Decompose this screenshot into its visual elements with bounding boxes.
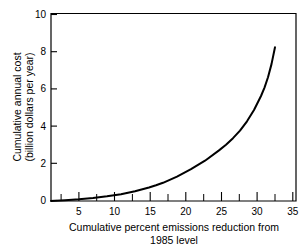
y-tick-label-10: 10 — [35, 9, 47, 20]
x-axis-title-line1: Cumulative percent emissions reduction f… — [69, 221, 279, 233]
y-axis-ticks — [51, 15, 57, 201]
chart-plot-area: 0 2 4 6 8 10 5 — [0, 0, 308, 249]
y-axis-title-line1: Cumulative annual cost — [11, 52, 23, 161]
y-axis-title-line2: (billion dollars per year) — [23, 52, 35, 161]
y-tick-label-0: 0 — [40, 195, 46, 206]
x-axis-title-line2: 1985 level — [150, 234, 198, 246]
y-axis-tick-labels: 0 2 4 6 8 10 — [35, 9, 47, 206]
x-tick-label-35: 35 — [287, 206, 299, 217]
plot-frame — [51, 14, 296, 202]
y-tick-label-4: 4 — [40, 121, 46, 132]
x-tick-label-25: 25 — [216, 206, 228, 217]
x-tick-label-10: 10 — [109, 206, 121, 217]
y-tick-label-2: 2 — [40, 158, 46, 169]
chart-figure: 0 2 4 6 8 10 5 — [0, 0, 308, 249]
x-axis-tick-labels: 5 10 15 20 25 30 35 — [76, 206, 299, 217]
x-tick-label-30: 30 — [252, 206, 264, 217]
y-tick-label-6: 6 — [40, 83, 46, 94]
x-tick-label-5: 5 — [76, 206, 82, 217]
data-curve-cumulative-annual-cost — [51, 47, 275, 201]
x-tick-label-15: 15 — [145, 206, 157, 217]
x-tick-label-20: 20 — [180, 206, 192, 217]
y-tick-label-8: 8 — [40, 46, 46, 57]
